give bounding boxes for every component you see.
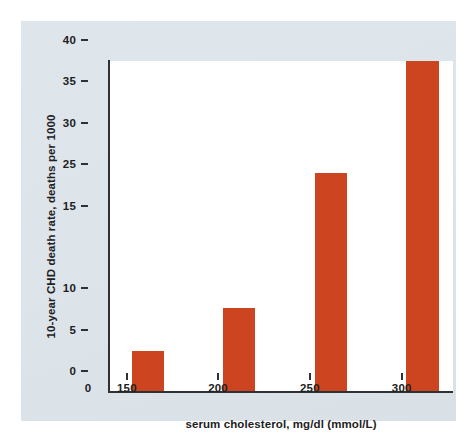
y-axis-tick-mark <box>81 80 88 82</box>
x-axis-tick-label: 150 <box>117 382 137 394</box>
x-axis-title: serum cholesterol, mg/dl (mmol/L) <box>109 418 453 430</box>
y-axis-tick-mark <box>81 163 88 165</box>
y-axis-tick-mark <box>81 370 88 372</box>
x-axis-tick-label: 250 <box>300 382 320 394</box>
y-axis-tick-label: 40 <box>30 34 76 46</box>
y-axis-tick-mark <box>81 122 88 124</box>
x-axis-tick-mark <box>401 373 403 380</box>
chart-figure: 40353025151050 0150200250300 serum chole… <box>0 0 476 439</box>
bar <box>315 173 348 392</box>
x-axis-tick-mark <box>309 373 311 380</box>
figure-panel: 40353025151050 0150200250300 serum chole… <box>21 21 456 421</box>
y-axis-tick-mark <box>81 287 88 289</box>
y-axis-line <box>108 60 110 393</box>
plot-area <box>109 61 453 392</box>
x-axis-tick-mark <box>217 373 219 380</box>
y-axis-tick-mark <box>81 329 88 331</box>
bar <box>406 61 439 392</box>
x-axis-tick-label: 0 <box>85 382 92 394</box>
x-axis-tick-mark <box>126 373 128 380</box>
y-axis-tick-mark <box>81 205 88 207</box>
bar <box>223 308 256 392</box>
y-axis-title: 10-year CHD death rate, deaths per 1000 <box>45 61 61 392</box>
x-axis-tick-label: 300 <box>392 382 412 394</box>
y-axis-tick-mark <box>81 39 88 41</box>
x-axis-tick-label: 200 <box>208 382 228 394</box>
